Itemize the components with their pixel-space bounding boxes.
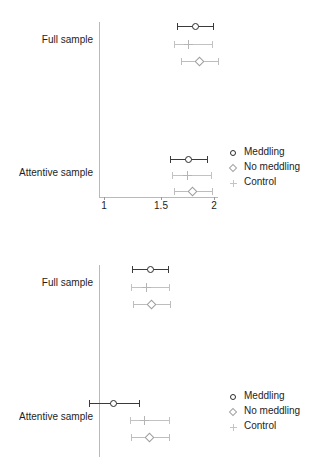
panel-b-attentive-control-cap-low (130, 417, 131, 424)
panel-b-attentive-control-marker (140, 416, 149, 425)
open-circle-icon (230, 150, 236, 156)
panel-b-attentive-meddling-cap-high (139, 400, 140, 407)
panel-a-x-axis (99, 197, 218, 198)
panel-b-attentive-control-cap-high (169, 417, 170, 424)
panel-a-ticklabel-1: 1 (92, 200, 116, 211)
panel-b-full-nomeddling-row (0, 299, 319, 310)
panel-b-attentive-nomeddling-cap-high (169, 434, 170, 441)
panel-b-full-control-row (0, 282, 319, 293)
panel-a-attentive-control-whisker (172, 175, 212, 176)
panel-b-full-meddling-row (0, 264, 319, 275)
panel-biden-voters: 1 1.5 2 Full sample Attentive sample (0, 0, 319, 212)
panel-a-full-control-cap-high (212, 41, 213, 48)
panel-a-attentive-nomeddling-cap-low (174, 188, 175, 195)
panel-b-full-meddling-cap-high (168, 266, 169, 273)
panel-b-full-control-cap-low (131, 284, 132, 291)
panel-a-full-meddling-cap-high (213, 23, 214, 30)
panel-b-full-nomeddling-marker (147, 300, 157, 310)
panel-b-legend-label-control: Control (244, 420, 276, 431)
panel-a-full-control-row (0, 39, 319, 50)
panel-b-vertical-axis (99, 265, 100, 457)
panel-a-attentive-nomeddling-cap-high (212, 188, 213, 195)
panel-a-full-control-cap-low (174, 41, 175, 48)
panel-a-ticklabel-2: 2 (202, 200, 226, 211)
open-circle-icon (230, 394, 236, 400)
panel-b-full-control-cap-high (169, 284, 170, 291)
plus-icon (230, 424, 237, 431)
panel-a-full-nomeddling-cap-low (181, 58, 182, 65)
panel-a-full-control-whisker (174, 44, 213, 45)
panel-a-full-control-marker (184, 40, 193, 49)
panel-b-full-nomeddling-cap-high (170, 301, 171, 308)
panel-b-attentive-control-whisker (130, 420, 170, 421)
panel-a-attentive-nomeddling-row (0, 186, 319, 197)
panel-a-attentive-control-cap-high (211, 172, 212, 179)
panel-a-attentive-meddling-cap-low (170, 156, 171, 163)
panel-b-attentive-nomeddling-row (0, 432, 319, 443)
plus-icon (230, 180, 237, 187)
panel-a-full-nomeddling-marker (195, 57, 205, 67)
panel-a-full-meddling-cap-low (177, 23, 178, 30)
panel-a-full-nomeddling-row (0, 56, 319, 67)
panel-a-legend-label-control: Control (244, 176, 276, 187)
panel-b-legend-label-no-meddling: No meddling (244, 405, 300, 416)
panel-b-full-control-marker (142, 283, 151, 292)
panel-a-full-nomeddling-cap-high (218, 58, 219, 65)
panel-a-full-meddling-marker (192, 23, 199, 30)
panel-b-legend-label-meddling: Meddling (244, 390, 285, 401)
panel-b-full-meddling-marker (147, 266, 154, 273)
panel-a-attentive-control-marker (183, 171, 192, 180)
panel-a-attentive-nomeddling-marker (188, 187, 198, 197)
panel-a-legend-label-no-meddling: No meddling (244, 161, 300, 172)
panel-a-attentive-meddling-marker (185, 156, 192, 163)
panel-b-full-nomeddling-cap-low (133, 301, 134, 308)
panel-b-attentive-nomeddling-cap-low (131, 434, 132, 441)
panel-second: Full sample Attentive sample (0, 243, 319, 457)
panel-a-attentive-meddling-cap-high (207, 156, 208, 163)
panel-b-attentive-meddling-cap-low (89, 400, 90, 407)
panel-b-full-meddling-cap-low (132, 266, 133, 273)
panel-a-ticklabel-15: 1.5 (149, 200, 173, 211)
panel-a-attentive-control-cap-low (172, 172, 173, 179)
panel-b-attentive-nomeddling-marker (145, 433, 155, 443)
panel-a-full-meddling-row (0, 21, 319, 32)
panel-b-attentive-meddling-marker (110, 400, 117, 407)
panel-a-legend-label-meddling: Meddling (244, 146, 285, 157)
